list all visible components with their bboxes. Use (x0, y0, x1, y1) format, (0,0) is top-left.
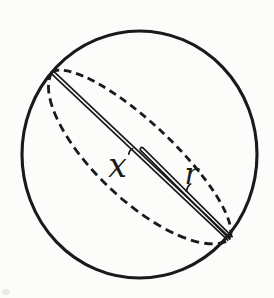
geometry-diagram: x r (0, 0, 274, 298)
label-x: x (108, 146, 127, 185)
scan-smudge (2, 289, 10, 295)
figure-canvas: x r (0, 0, 274, 298)
label-r: r (185, 157, 201, 191)
